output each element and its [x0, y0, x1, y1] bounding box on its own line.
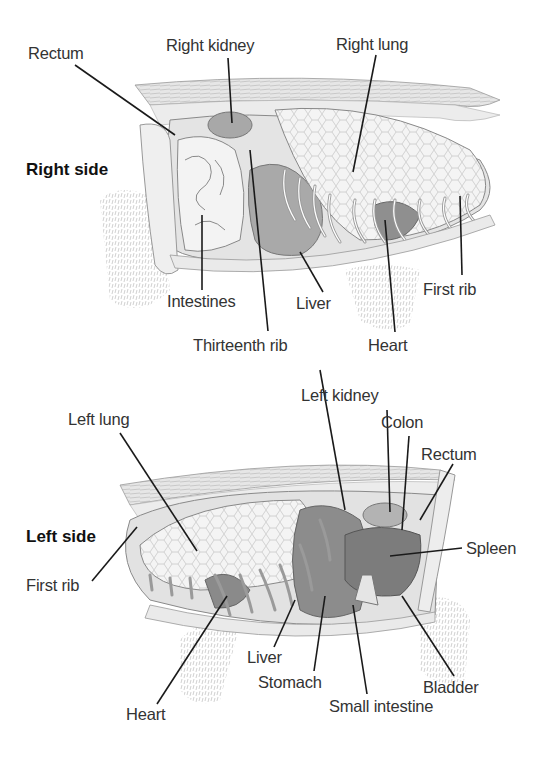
label-intestines: Intestines — [167, 292, 236, 311]
label-right-lung: Right lung — [336, 35, 408, 54]
spleen-shape — [345, 528, 421, 597]
label-first-rib-left: First rib — [26, 576, 79, 595]
label-heart-left: Heart — [126, 705, 165, 724]
label-colon: Colon — [381, 413, 423, 432]
anatomy-figure: Right side Rectum Right kidney Right lun… — [0, 0, 552, 758]
label-small-intestine: Small intestine — [329, 697, 433, 716]
label-left-lung: Left lung — [68, 410, 130, 429]
label-rectum-right: Rectum — [28, 44, 84, 63]
label-bladder: Bladder — [423, 678, 478, 697]
left-kidney-shape — [363, 503, 407, 527]
label-thirteenth-rib: Thirteenth rib — [193, 336, 287, 355]
right-kidney-shape — [208, 112, 252, 138]
right-side-title: Right side — [26, 160, 108, 180]
label-heart-right: Heart — [368, 336, 407, 355]
label-right-kidney: Right kidney — [166, 36, 254, 55]
label-liver-left: Liver — [247, 648, 282, 667]
label-rectum-left: Rectum — [421, 445, 477, 464]
label-stomach: Stomach — [258, 673, 322, 692]
label-spleen: Spleen — [466, 539, 516, 558]
fur-patch — [345, 265, 420, 329]
left-side-title: Left side — [26, 527, 96, 547]
label-first-rib-right: First rib — [423, 280, 476, 299]
label-liver-right: Liver — [296, 294, 331, 313]
label-left-kidney: Left kidney — [301, 386, 379, 405]
anatomy-illustration — [0, 0, 552, 758]
